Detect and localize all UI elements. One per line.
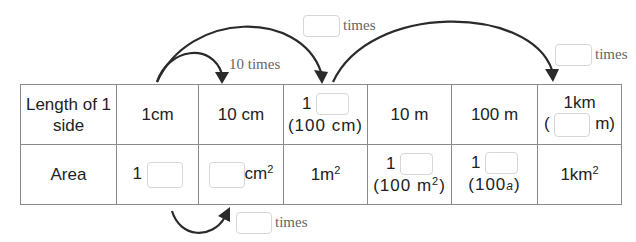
answer-box-cm-to-m-times[interactable]	[303, 15, 340, 37]
value-1km: 1km	[560, 165, 592, 184]
value-1m: 1m	[311, 165, 335, 184]
row-header-length: Length of 1 side	[21, 85, 117, 145]
arrowhead-1cm-to-1m	[314, 70, 328, 84]
answer-box-km-in-m[interactable]	[554, 113, 590, 137]
value-10m: 10 m	[391, 105, 429, 124]
arrowhead-area-bottom	[218, 207, 230, 222]
table-row-area: Area 1 cm2 1m2 1 (100 m2) 1 (100a) 1km2	[21, 145, 622, 205]
arrow-area-bottom	[172, 211, 225, 233]
answer-box-area-ha[interactable]	[485, 152, 518, 174]
header-length-line2: side	[53, 116, 84, 135]
answer-box-area-a[interactable]	[400, 153, 433, 175]
label-10-times: 10 times	[229, 56, 280, 73]
row-header-area: Area	[21, 145, 117, 205]
answer-box-area-unit[interactable]	[147, 162, 183, 188]
answer-box-1-unit-m[interactable]	[316, 93, 349, 115]
value-1cm: 1cm	[141, 105, 173, 124]
note-100m: (100 m	[373, 176, 432, 195]
cell-area-100m2: 1 (100 m2)	[368, 145, 452, 205]
cell-area-100a: 1 (100a)	[452, 145, 538, 205]
table-row-length: Length of 1 side 1cm 10 cm 1 (100 cm) 10…	[21, 85, 622, 145]
value-100m: 100 m	[471, 105, 518, 124]
cell-1m: 1 (100 cm)	[284, 85, 368, 145]
cell-1cm: 1cm	[117, 85, 199, 145]
paren-open: (	[544, 114, 550, 133]
header-length-line1: Length of 1	[26, 95, 111, 114]
cell-1km: 1km ( m)	[538, 85, 622, 145]
value-1km: 1km	[538, 92, 621, 113]
unit-m-close: m)	[595, 114, 615, 133]
answer-box-m-to-km-times[interactable]	[555, 44, 592, 66]
value-1: 1	[471, 153, 480, 172]
superscript-2: 2	[267, 163, 273, 175]
label-times-area: times	[275, 214, 308, 231]
superscript-2: 2	[593, 164, 599, 176]
paren-close: )	[439, 176, 446, 195]
cell-area-cm2: cm2	[199, 145, 284, 205]
answer-box-area-times[interactable]	[236, 212, 272, 234]
answer-box-area-cm2[interactable]	[209, 162, 245, 188]
cell-1m2: 1m2	[284, 145, 368, 205]
units-table: Length of 1 side 1cm 10 cm 1 (100 cm) 10…	[20, 84, 622, 205]
value-1: 1	[302, 94, 311, 113]
arrowhead-1cm-to-10cm	[215, 72, 229, 84]
cell-10cm: 10 cm	[199, 85, 284, 145]
header-area: Area	[51, 165, 87, 184]
superscript-2: 2	[334, 164, 340, 176]
cell-10m: 10 m	[368, 85, 452, 145]
arrow-1cm-to-10cm	[157, 53, 222, 82]
arrow-1cm-to-1m	[157, 27, 321, 82]
label-times-m-to-km: times	[595, 46, 628, 63]
note-100cm: (100 cm)	[284, 115, 367, 136]
cell-1km2: 1km2	[538, 145, 622, 205]
value-10cm: 10 cm	[218, 105, 264, 124]
cell-area-1: 1	[117, 145, 199, 205]
label-times-cm-to-m: times	[343, 17, 376, 34]
unit-cm: cm	[245, 164, 268, 183]
cell-100m: 100 m	[452, 85, 538, 145]
value-1: 1	[386, 154, 395, 173]
unit-a: a	[506, 179, 514, 193]
note-100: (100	[468, 175, 506, 194]
value-1: 1	[132, 164, 141, 183]
paren-close: )	[514, 175, 521, 194]
arrowhead-1m-to-1km	[545, 69, 559, 82]
